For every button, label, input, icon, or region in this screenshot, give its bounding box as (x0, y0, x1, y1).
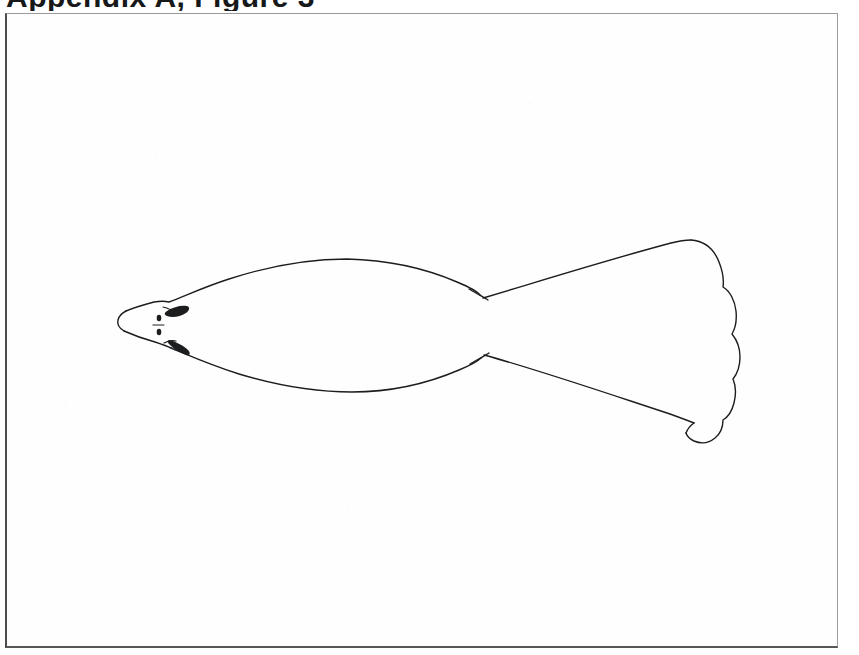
eye-mark-upper (165, 306, 189, 317)
ventral-outline-lower (171, 348, 481, 392)
tail-edge-lower (484, 355, 694, 423)
tail-fin-scalloped-edge (686, 240, 740, 443)
fish-line-drawing (7, 14, 840, 649)
tail-edge-upper (483, 240, 691, 298)
peduncle-notch-upper (469, 289, 488, 300)
snout-tip-outline (118, 311, 126, 331)
fish-outline (118, 240, 740, 443)
dorsal-outline-upper (126, 259, 480, 311)
peduncle-notch-lower (470, 353, 489, 364)
scanned-page: Appendix A, Figure 3 (0, 0, 859, 655)
head-outline-lower (124, 331, 171, 348)
figure-border-box (5, 13, 838, 648)
nostril-dot-upper (157, 315, 162, 321)
page-title: Appendix A, Figure 3 (6, 0, 315, 11)
page-heading-strip: Appendix A, Figure 3 (0, 0, 859, 11)
tail-bottom-corner (686, 423, 694, 433)
nostril-dot-lower (157, 329, 162, 335)
